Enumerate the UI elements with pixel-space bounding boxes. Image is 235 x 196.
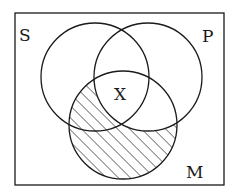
venn-diagram: S P M X [0, 0, 235, 196]
set-m-label: M [186, 162, 203, 182]
set-s-label: S [19, 25, 31, 45]
x-mark-label: X [114, 84, 127, 104]
set-p-label: P [202, 26, 213, 46]
